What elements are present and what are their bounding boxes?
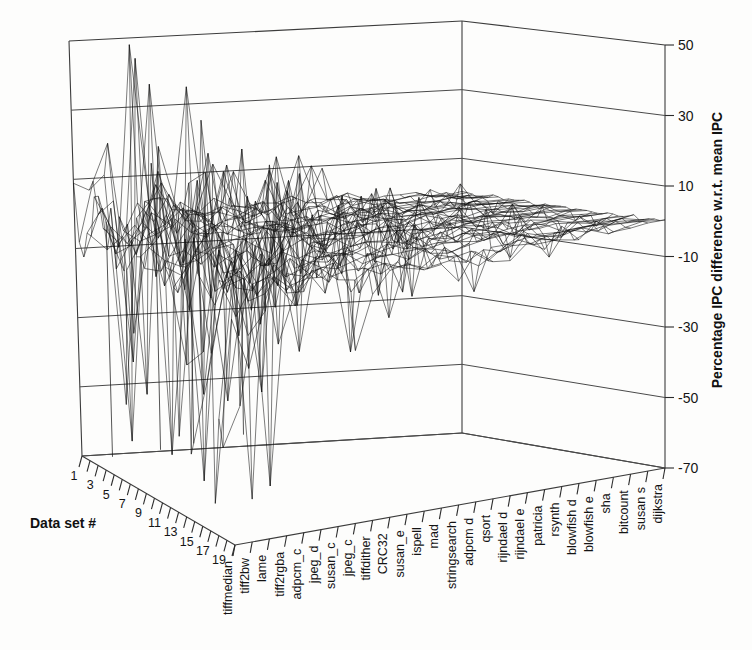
x-tick-24 <box>646 471 648 482</box>
x-tick-22 <box>611 477 613 488</box>
x-category-label-20: blowfish d <box>565 499 579 555</box>
x-category-label-9: CRC32 <box>376 533 390 574</box>
x-category-label-14: adpcm d <box>462 518 476 566</box>
z-tick-label-10: 10 <box>678 178 694 194</box>
box-edge-top-back-right <box>462 21 665 45</box>
z-tick-label--70: -70 <box>678 460 698 476</box>
x-category-label-25: dijkstra <box>651 484 665 524</box>
x-axis-category-labels: tiffmediantiff2bwlametiff2rgbaadpcm_cjpe… <box>221 484 665 615</box>
y-tick-11 <box>160 503 163 514</box>
x-category-label-15: qsort <box>479 514 493 542</box>
x-tick-10 <box>405 514 407 525</box>
mesh-row-19 <box>151 163 561 455</box>
y-tick-13 <box>176 512 179 523</box>
x-category-label-1: tiff2bw <box>238 557 252 594</box>
x-category-label-8: tiffdither <box>359 536 373 580</box>
x-category-label-6: susan_c <box>324 543 338 590</box>
x-category-label-19: rsynth <box>548 502 562 536</box>
x-tick-19 <box>560 486 562 497</box>
y-tick-label-1: 1 <box>71 469 78 483</box>
x-tick-16 <box>508 496 510 507</box>
x-category-label-4: adpcm_c <box>290 549 304 600</box>
x-category-label-21: blowfish e <box>582 496 596 552</box>
y-tick-label-11: 11 <box>148 516 161 530</box>
y-tick-2 <box>87 461 90 472</box>
x-category-label-10: susan_e <box>393 530 407 577</box>
y-tick-16 <box>200 526 203 537</box>
x-tick-15 <box>491 499 493 510</box>
mesh-col-25 <box>462 191 665 220</box>
y-tick-15 <box>192 522 195 533</box>
gridline-back-left--70 <box>82 433 462 456</box>
x-category-label-7: jpeg_c <box>341 539 355 577</box>
y-tick-10 <box>151 498 154 509</box>
z-tick-label-50: 50 <box>678 37 694 53</box>
x-category-label-13: stringsearch <box>445 521 459 589</box>
x-category-label-17: rijndael e <box>513 509 527 560</box>
y-tick-19 <box>224 540 227 551</box>
x-tick-3 <box>285 536 287 547</box>
x-category-label-22: sha <box>599 493 613 513</box>
z-tick-label-30: 30 <box>678 108 694 124</box>
x-category-label-11: ispell <box>410 527 424 556</box>
mesh-col-7 <box>185 164 356 350</box>
x-tick-14 <box>474 502 476 513</box>
x-category-label-23: bitcount <box>617 490 631 534</box>
x-tick-4 <box>302 533 304 544</box>
x-tick-2 <box>267 539 269 550</box>
y-tick-label-7: 7 <box>119 497 126 511</box>
y-tick-6 <box>119 479 122 490</box>
plot-box <box>69 21 665 545</box>
y-tick-label-15: 15 <box>180 535 194 549</box>
y-tick-9 <box>143 493 146 504</box>
gridline-back-left--50 <box>80 364 462 387</box>
x-category-label-16: rijndael d <box>496 512 510 563</box>
gridline-back-right--50 <box>462 364 665 397</box>
x-tick-6 <box>336 527 338 538</box>
gridline-back-right-30 <box>462 90 665 116</box>
x-tick-18 <box>543 490 545 501</box>
y-tick-label-9: 9 <box>135 506 142 520</box>
z-tick-label--50: -50 <box>678 390 698 406</box>
x-tick-7 <box>353 523 355 534</box>
gridline-back-right-10 <box>462 158 665 186</box>
x-category-label-0: tiffmedian <box>221 561 235 615</box>
x-tick-12 <box>439 508 441 519</box>
y-tick-1 <box>79 456 82 467</box>
z-tick-label--10: -10 <box>678 249 698 265</box>
y-tick-7 <box>127 484 130 495</box>
x-category-label-18: patricia <box>531 506 545 546</box>
deep-spike-6 <box>241 240 244 434</box>
y-tick-8 <box>135 489 138 500</box>
x-tick-1 <box>250 542 252 553</box>
x-tick-20 <box>577 483 579 494</box>
x-tick-21 <box>594 480 596 491</box>
y-tick-label-5: 5 <box>103 488 110 502</box>
gridline-back-right--30 <box>462 296 665 327</box>
z-tick-label--30: -30 <box>678 319 698 335</box>
box-edge-top-back-left <box>69 21 462 41</box>
surface-mesh <box>74 45 666 504</box>
y-tick-label-13: 13 <box>164 525 178 539</box>
y-tick-14 <box>184 517 187 528</box>
y-tick-5 <box>111 475 114 486</box>
chart-figure: 503010-10-30-50-70 135791113151719 tiffm… <box>0 0 752 650</box>
y-tick-17 <box>208 531 211 542</box>
surface-plot-svg: 503010-10-30-50-70 135791113151719 tiffm… <box>0 0 752 650</box>
x-category-label-5: jpeg_d <box>307 546 321 585</box>
y-axis-title: Data set # <box>30 515 96 531</box>
x-tick-25 <box>663 468 665 479</box>
x-tick-13 <box>457 505 459 516</box>
z-axis-title: Percentage IPC difference w.r.t. mean IP… <box>709 112 725 388</box>
x-tick-17 <box>525 493 527 504</box>
x-category-label-2: lame <box>255 555 269 582</box>
x-tick-5 <box>319 530 321 541</box>
x-tick-9 <box>388 517 390 528</box>
mesh-row-23 <box>169 210 581 365</box>
z-axis-tick-labels: 503010-10-30-50-70 <box>678 37 698 476</box>
y-tick-label-3: 3 <box>87 478 94 492</box>
gridline-back-left-10 <box>73 158 462 179</box>
gridline-back-right--70 <box>462 433 665 468</box>
x-category-label-24: susan s <box>634 487 648 530</box>
x-category-label-3: tiff2rgba <box>273 552 287 597</box>
